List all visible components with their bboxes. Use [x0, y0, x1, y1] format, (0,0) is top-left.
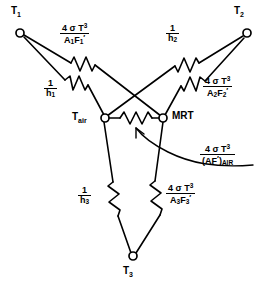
- thermal-resistance-network-diagram: T1 T2 T3 Tair MRT 4 σ T3 A1F1′ 1 h1 1 h2: [0, 0, 270, 293]
- resistor-R-A3F3: [150, 181, 162, 215]
- resistor-label-R-A3F3: 4 σ T3 A3F3′: [166, 183, 195, 207]
- branch-Tair-MRT-air: [109, 112, 159, 124]
- resistor-label-R-A2F2: 4 σ T3 A2F2′: [203, 76, 232, 100]
- prime-mark-A1F1: ′: [83, 33, 85, 42]
- wire-T1-to-R-h1: [24, 37, 65, 80]
- node-T2: [243, 29, 251, 37]
- fraction-A1F1: 4 σ T3 A1F1′: [60, 23, 89, 46]
- resistor-label-R-h3: 1 h3: [78, 186, 91, 207]
- node-label-T1: T1: [11, 6, 21, 18]
- fraction-h2: 1 h2: [166, 24, 179, 45]
- denominator-h1: h1: [44, 89, 57, 99]
- node-label-Tair: Tair: [72, 112, 87, 124]
- resistor-R-A1F1: [71, 57, 95, 71]
- denominator-A3F3: A3F3′: [166, 194, 195, 206]
- resistor-R-h3: [108, 182, 120, 216]
- wire-T2-to-R-A2F2: [205, 38, 244, 81]
- wire-R-h1-to-Tair: [88, 85, 104, 115]
- prime-mark-A2F2: ′: [226, 86, 228, 95]
- node-T3: [129, 252, 137, 260]
- leader-line-air-label: [136, 128, 253, 166]
- fraction-h3: 1 h3: [78, 186, 91, 207]
- branch-T1-Tair: [24, 37, 104, 115]
- wire-MRT-to-R-A3F3: [155, 122, 163, 181]
- node-Tair: [101, 114, 109, 122]
- denominator-AIR: (AF′)AIR: [200, 155, 235, 167]
- resistor-R-A2F2: [181, 77, 205, 91]
- wire-R-h2-to-Tair: [107, 66, 175, 116]
- node-T1: [16, 29, 24, 37]
- node-MRT: [159, 114, 167, 122]
- leader-curve: [136, 128, 253, 166]
- branch-T1-MRT: [24, 35, 161, 116]
- resistor-label-R-h2: 1 h2: [166, 24, 179, 45]
- wire-R-A1F1-to-MRT: [95, 65, 161, 116]
- denominator-A1F1: A1F1′: [60, 34, 89, 46]
- fraction-A2F2: 4 σ T3 A2F2′: [203, 76, 232, 99]
- node-label-T3: T3: [123, 266, 133, 278]
- wire-R-h3-to-T3: [118, 216, 131, 253]
- wire-Tair-to-R-h3: [104, 122, 113, 182]
- node-label-MRT: MRT: [172, 111, 194, 122]
- denominator-h3: h3: [78, 196, 91, 206]
- resistor-label-R-A1F1: 4 σ T3 A1F1′: [60, 23, 89, 47]
- node-label-T2: T2: [234, 6, 244, 18]
- denominator-A2F2: A2F2′: [203, 87, 232, 99]
- wire-T2-to-R-h2: [199, 36, 243, 63]
- denominator-h2: h2: [166, 34, 179, 44]
- wire-R-A3F3-to-T3: [136, 215, 160, 253]
- fraction-A3F3: 4 σ T3 A3F3′: [166, 183, 195, 206]
- resistor-R-AIR: [120, 112, 152, 124]
- fraction-AIR: 4 σ T3 (AF′)AIR: [200, 144, 235, 167]
- resistor-R-h2: [175, 58, 199, 72]
- prime-mark-A3F3: ′: [189, 193, 191, 202]
- branch-Tair-T3: [104, 122, 131, 253]
- resistor-label-R-h1: 1 h1: [44, 79, 57, 100]
- subscript-AIR: AIR: [222, 159, 233, 166]
- resistor-label-R-AIR: 4 σ T3 (AF′)AIR: [200, 144, 235, 168]
- resistor-R-h1: [65, 76, 88, 90]
- fraction-h1: 1 h1: [44, 79, 57, 100]
